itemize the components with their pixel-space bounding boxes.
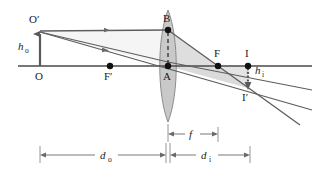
point-i bbox=[245, 63, 251, 69]
label-hi-symbol: h bbox=[255, 64, 261, 76]
label-object-height: h o bbox=[18, 40, 29, 55]
f-arrowhead-right bbox=[212, 132, 218, 137]
do-arrowhead-left bbox=[40, 153, 46, 158]
ray-parallel-refracted bbox=[168, 30, 300, 125]
di-arrowhead-right bbox=[244, 153, 250, 158]
point-b bbox=[165, 27, 171, 33]
label-lens-center: A bbox=[163, 70, 171, 82]
label-object-distance: d bbox=[100, 149, 106, 161]
label-far-focal-point: F bbox=[214, 47, 220, 59]
point-f bbox=[215, 63, 221, 69]
label-lens-top: B bbox=[163, 12, 170, 24]
point-a bbox=[165, 63, 171, 69]
label-image-tip: I′ bbox=[242, 91, 248, 103]
label-di-subscript: i bbox=[209, 155, 211, 164]
label-hi-subscript: i bbox=[262, 70, 264, 79]
do-arrowhead-right bbox=[160, 153, 166, 158]
lens-ray-diagram: O′ O h o F′ B A F I I′ h i f bbox=[0, 0, 327, 169]
dimension-object-distance: d o bbox=[40, 143, 166, 164]
label-object-top: O′ bbox=[29, 13, 39, 25]
f-arrowhead-left bbox=[168, 132, 174, 137]
label-image-base: I bbox=[245, 47, 249, 59]
label-focal-length: f bbox=[189, 128, 194, 140]
shaded-ray-regions bbox=[40, 30, 248, 88]
dimension-image-distance: d i bbox=[170, 143, 250, 164]
label-near-focal-point: F′ bbox=[104, 70, 113, 82]
optics-diagram-svg: O′ O h o F′ B A F I I′ h i f bbox=[0, 0, 327, 169]
dimension-focal-length: f bbox=[168, 124, 218, 142]
label-do-subscript: o bbox=[108, 155, 112, 164]
label-ho-subscript: o bbox=[25, 46, 29, 55]
shade-wedge-object bbox=[40, 30, 168, 66]
point-f-prime bbox=[107, 63, 113, 69]
di-arrowhead-left bbox=[170, 153, 176, 158]
label-ho-symbol: h bbox=[18, 40, 24, 52]
label-image-distance: d bbox=[201, 149, 207, 161]
label-object-base: O bbox=[35, 70, 43, 82]
